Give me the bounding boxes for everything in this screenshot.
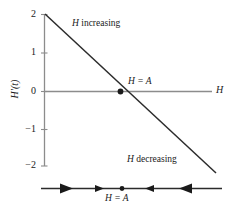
y-tick-label-1: 1: [24, 47, 36, 57]
annotation-h-increasing-text: increasing: [79, 18, 120, 28]
equilibrium-point-graph: [118, 89, 124, 95]
x-axis-label: H: [216, 85, 223, 95]
annotation-equilibrium-phase: H = A: [105, 194, 129, 204]
y-tick-label-minus-2: −2: [20, 160, 36, 170]
annotation-h-decreasing-symbol: H: [127, 154, 134, 164]
y-tick-label-2: 2: [24, 9, 36, 19]
slope-line: [45, 14, 216, 173]
phase-arrow-right-1-icon: [60, 184, 73, 194]
phase-arrow-left-1-icon: [145, 185, 154, 192]
annotation-h-increasing-symbol: H: [72, 18, 79, 28]
figure-canvas: [0, 0, 236, 209]
annotation-h-increasing: H increasing: [72, 19, 120, 29]
y-axis-label: H'(t): [10, 71, 20, 107]
annotation-equilibrium-graph: H = A: [128, 77, 152, 87]
figure-hprime-vs-h: 2 1 0 −1 −2 H'(t) H H increasing H = A H…: [0, 0, 236, 209]
annotation-h-decreasing-text: decreasing: [134, 154, 177, 164]
phase-arrow-left-2-icon: [179, 184, 192, 194]
equilibrium-point-phase: [120, 186, 125, 191]
annotation-h-decreasing: H decreasing: [127, 155, 177, 165]
y-tick-label-0: 0: [24, 86, 36, 96]
y-tick-label-minus-1: −1: [20, 124, 36, 134]
phase-arrow-right-2-icon: [95, 185, 104, 192]
